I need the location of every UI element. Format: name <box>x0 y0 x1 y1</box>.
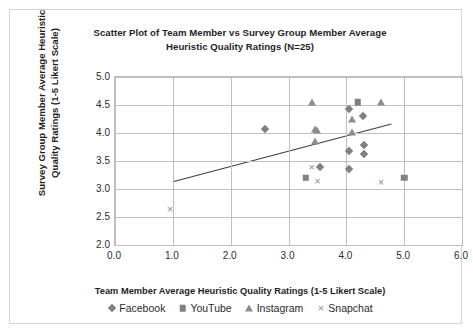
data-point-instagram <box>348 128 356 135</box>
y-axis-tick-label: 5.0 <box>70 71 110 82</box>
y-axis-tick-label: 3.5 <box>70 155 110 166</box>
legend-glyph <box>180 305 187 312</box>
data-point-snapchat: × <box>307 162 316 171</box>
legend-marker-cross-icon: × <box>316 304 325 313</box>
y-axis-tick-label: 2.0 <box>70 239 110 250</box>
x-axis-tick-label: 3.0 <box>268 250 308 261</box>
legend-label: YouTube <box>190 302 231 314</box>
gridline-vertical <box>173 77 174 245</box>
data-point-snapchat: × <box>313 177 322 186</box>
data-point-instagram <box>308 99 316 106</box>
data-point-snapchat: × <box>165 204 174 213</box>
gridline-vertical <box>231 77 232 245</box>
data-point-youtube <box>303 175 310 182</box>
legend-item-youtube[interactable]: YouTube <box>178 302 231 314</box>
legend-label: Instagram <box>257 302 304 314</box>
data-point-youtube <box>355 99 362 106</box>
y-axis-label: Survey Group Member Average Heuristic Qu… <box>35 3 61 203</box>
y-axis-label-line-1: Survey Group Member Average Heuristic <box>35 3 48 203</box>
y-axis-label-line-2: Quality Ratings (1-5 Likert Scale) <box>48 3 61 203</box>
y-axis-tick-label: 2.5 <box>70 211 110 222</box>
chart-card: Scatter Plot of Team Member vs Survey Gr… <box>9 9 462 324</box>
legend-glyph: × <box>316 304 325 313</box>
legend-item-instagram[interactable]: Instagram <box>245 302 304 314</box>
plot-area: ×××× <box>114 76 463 246</box>
x-axis-tick-label: 1.0 <box>152 250 192 261</box>
data-point-instagram <box>311 138 319 145</box>
legend-marker-triangle-icon <box>245 304 254 313</box>
gridline-vertical <box>462 77 463 245</box>
x-axis-tick-label: 4.0 <box>325 250 365 261</box>
gridline-vertical <box>115 77 116 245</box>
data-point-youtube <box>401 175 408 182</box>
gridline-vertical <box>289 77 290 245</box>
chart-title-line-2: Heuristic Quality Ratings (N=25) <box>60 40 420 54</box>
legend-glyph <box>108 304 116 312</box>
data-point-instagram <box>313 127 321 134</box>
legend-label: Snapchat <box>328 302 372 314</box>
x-axis-label: Team Member Average Heuristic Quality Ra… <box>70 286 410 296</box>
data-point-snapchat: × <box>377 178 386 187</box>
y-axis-tick-label: 3.0 <box>70 183 110 194</box>
x-axis-ticks: 0.01.02.03.04.05.06.0 <box>114 250 463 266</box>
legend-item-snapchat[interactable]: ×Snapchat <box>316 302 372 314</box>
chart-title-line-1: Scatter Plot of Team Member vs Survey Gr… <box>60 26 420 40</box>
chart-title: Scatter Plot of Team Member vs Survey Gr… <box>60 26 420 54</box>
legend-marker-diamond-icon <box>107 304 116 313</box>
data-point-instagram <box>348 116 356 123</box>
x-axis-tick-label: 0.0 <box>94 250 134 261</box>
gridline-vertical <box>346 77 347 245</box>
y-axis-ticks: 5.04.54.03.53.02.52.0 <box>62 76 110 246</box>
data-point-instagram <box>377 99 385 106</box>
chart-legend: FacebookYouTubeInstagram×Snapchat <box>70 302 410 314</box>
gridline-vertical <box>404 77 405 245</box>
legend-marker-square-icon <box>178 304 187 313</box>
legend-label: Facebook <box>119 302 165 314</box>
x-axis-tick-label: 6.0 <box>441 250 473 261</box>
x-axis-tick-label: 2.0 <box>210 250 250 261</box>
y-axis-tick-label: 4.5 <box>70 99 110 110</box>
x-axis-tick-label: 5.0 <box>383 250 423 261</box>
legend-glyph <box>245 305 253 312</box>
y-axis-tick-label: 4.0 <box>70 127 110 138</box>
gridline-horizontal <box>115 245 462 246</box>
legend-item-facebook[interactable]: Facebook <box>107 302 165 314</box>
